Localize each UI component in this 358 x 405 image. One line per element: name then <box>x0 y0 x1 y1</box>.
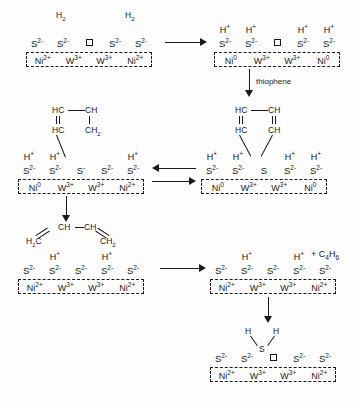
proton-p4: H+ <box>290 23 316 35</box>
h2s-hydrogen-right: H <box>273 326 279 336</box>
proton-p5: H+ <box>316 23 342 35</box>
metal-box-step5: Ni2+ W3+ W3+ Ni2+ <box>18 279 144 294</box>
anion-s2: S2- <box>234 264 260 276</box>
metal-ni-left: Ni0 <box>19 181 50 193</box>
anion-s4: S2- <box>286 352 312 364</box>
ring-carbon-top-left: HC <box>52 105 64 115</box>
ring-double-bond-left-a <box>239 116 240 124</box>
anion-vacancy <box>264 39 290 49</box>
proton-p2: H+ <box>42 250 68 262</box>
anion-sulfur-bound: S <box>251 165 277 176</box>
ring-bond-right <box>89 116 90 124</box>
proton-slot-empty-5 <box>120 250 146 262</box>
vacancy-square-icon <box>270 354 277 361</box>
proton-slot-empty <box>251 150 277 162</box>
proton-p4: H+ <box>277 150 303 162</box>
metal-box-step4: Ni0 W3+ W3+ Ni2+ <box>18 179 144 194</box>
ring-carbon-bottom-right: CH2 <box>85 125 101 137</box>
metal-w-1: W3+ <box>233 181 264 193</box>
metal-ni-left: Ni2+ <box>19 281 50 293</box>
proton-p4: H+ <box>94 250 120 262</box>
ring-carbon-top-right: CH <box>85 105 97 115</box>
metal-w-2: W3+ <box>273 369 304 381</box>
butadiene-right-terminal: CH2 <box>100 236 116 248</box>
metal-ni-right: Ni0 <box>295 181 326 193</box>
metal-ni-right: Ni2+ <box>304 281 335 293</box>
metal-box-step7: Ni2+ W3+ W3+ Ni2+ <box>210 367 336 382</box>
anion-s5: S2- <box>312 264 338 276</box>
anion-s2: S2- <box>238 37 264 49</box>
proton-p4: H+ <box>286 250 312 262</box>
anion-s1: S2- <box>208 352 234 364</box>
ring-carbon-top-left: HC <box>235 105 247 115</box>
ring-double-bond-left-b <box>242 116 243 124</box>
anion-row-step1: S2- S2- S2- S2- <box>24 37 154 49</box>
anion-row-step6: S2- S2- S2- S2- S2- <box>208 264 338 276</box>
arrow-step4-to-step3-lower <box>152 177 196 187</box>
ring-carbon-top-right: CH <box>268 105 280 115</box>
ring-bond-top <box>68 110 85 111</box>
ring-double-bond-right-b <box>275 116 276 124</box>
metal-w-1: W3+ <box>242 369 273 381</box>
metal-w-2: W3+ <box>264 181 295 193</box>
metal-ni-right: Ni2+ <box>304 369 335 381</box>
metal-w-1: W3+ <box>50 181 81 193</box>
metal-w-1: W3+ <box>58 54 89 66</box>
ring-bond-top <box>251 110 268 111</box>
arrow-step3-to-step4-upper <box>152 164 196 174</box>
metal-w-1: W3+ <box>50 281 81 293</box>
metal-w-2: W3+ <box>273 281 304 293</box>
anion-s1: S2- <box>24 37 50 49</box>
anion-s4: S2- <box>277 164 303 176</box>
arrow-label-thiophene: thiophene <box>256 77 291 86</box>
butadiene-mid-left-carbon: CH <box>58 222 70 232</box>
anion-s4: S2- <box>94 264 120 276</box>
anion-s4: S2- <box>286 264 312 276</box>
vacancy-square-icon <box>274 39 281 46</box>
ring-double-bond-left-b <box>59 116 60 124</box>
metal-ni-left: Ni2+ <box>211 281 242 293</box>
metal-ni-left: Ni2+ <box>211 369 242 381</box>
anion-s5: S2- <box>316 37 342 49</box>
anion-s3: S2- <box>68 264 94 276</box>
proton-slot-empty-3 <box>68 250 94 262</box>
proton-slot-empty-1 <box>208 250 234 262</box>
anion-s2: S2- <box>42 164 68 176</box>
ring-carbon-bottom-left: HC <box>235 125 247 135</box>
anion-sulfur-mono: S- <box>68 164 94 176</box>
anion-row-step5: S2- S2- S2- S2- S2- <box>16 264 146 276</box>
metal-box-step3: Ni0 W3+ W3+ Ni0 <box>201 179 327 194</box>
proton-slot-empty <box>264 23 290 35</box>
proton-slot-empty-3 <box>260 250 286 262</box>
proton-p1: H+ <box>16 150 42 162</box>
ring-carbon-bottom-right: CH <box>268 125 280 135</box>
anion-s2: S2- <box>225 164 251 176</box>
arrow-step1-to-step2 <box>165 38 207 48</box>
proton-p1: H+ <box>212 23 238 35</box>
metal-w-2: W3+ <box>81 281 112 293</box>
metal-w-1: W3+ <box>242 281 273 293</box>
anion-s3: S2- <box>260 264 286 276</box>
metal-ni-right: Ni2+ <box>112 281 143 293</box>
anion-s1: S2- <box>208 264 234 276</box>
reaction-mechanism-diagram: H2 H2 S2- S2- S2- S2- Ni2+ W3+ W3+ Ni2+ … <box>0 0 358 405</box>
proton-p1: H+ <box>199 150 225 162</box>
proton-slot-empty-4 <box>94 150 120 162</box>
metal-ni-left: Ni2+ <box>27 54 58 66</box>
anion-s2: S2- <box>234 352 260 364</box>
proton-row-step3: H+ H+ H+ H+ <box>199 150 329 162</box>
anion-row-step2: S2- S2- S2- S2- <box>212 37 342 49</box>
dihydrogen-label-left: H2 <box>56 10 65 22</box>
metal-box-step6: Ni2+ W3+ W3+ Ni2+ <box>210 279 336 294</box>
product-butadiene-label: + C4H6 <box>311 249 339 261</box>
proton-p2: H+ <box>225 150 251 162</box>
h2s-bond-left <box>250 336 258 346</box>
proton-row-step5: H+ H+ <box>16 250 146 262</box>
butadiene-central-single-bond <box>75 227 84 228</box>
metal-w-2: W3+ <box>89 54 120 66</box>
metal-ni-right: Ni2+ <box>120 54 151 66</box>
proton-p2: H+ <box>42 150 68 162</box>
ring-carbon-bottom-left: HC <box>52 125 64 135</box>
h2s-bond-right <box>267 336 275 346</box>
anion-s4: S2- <box>290 37 316 49</box>
